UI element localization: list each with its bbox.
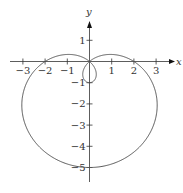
x-tick-label: 2	[131, 65, 137, 76]
y-axis-arrow-icon	[87, 21, 92, 28]
x-tick-label: −1	[60, 65, 75, 76]
axes	[10, 21, 175, 182]
x-tick-label: 3	[153, 65, 159, 76]
y-tick-label: −2	[71, 98, 86, 109]
y-tick-label: −3	[71, 120, 86, 131]
x-axis-label: x	[176, 56, 182, 67]
y-tick-label: −4	[71, 141, 86, 152]
x-tick-label: −2	[38, 65, 53, 76]
y-axis-label: y	[85, 6, 92, 17]
x-axis-arrow-icon	[169, 59, 175, 64]
polar-graph: −3−2−11231−1−2−3−4−5 x y	[0, 0, 183, 193]
x-tick-label: −3	[16, 65, 31, 76]
y-tick-label: 1	[79, 35, 85, 46]
x-tick-label: 1	[109, 65, 115, 76]
ticks: −3−2−11231−1−2−3−4−5	[16, 35, 160, 173]
